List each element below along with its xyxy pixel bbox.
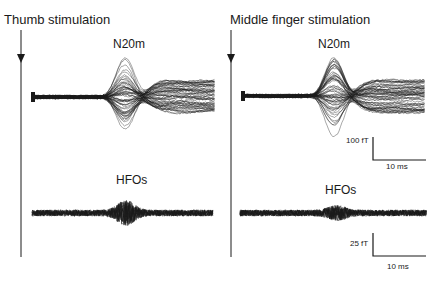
hfo-traces-middle	[240, 205, 426, 221]
time-arrow-middle	[227, 30, 235, 257]
scale-bar-top	[373, 137, 426, 160]
hfo-traces-thumb	[32, 200, 213, 225]
figure-canvas	[0, 0, 440, 281]
n20m-waveforms-middle	[241, 58, 425, 137]
n20m-waveforms-thumb	[31, 58, 215, 129]
scale-bar-bottom	[373, 233, 426, 256]
time-arrow-thumb	[17, 30, 25, 257]
